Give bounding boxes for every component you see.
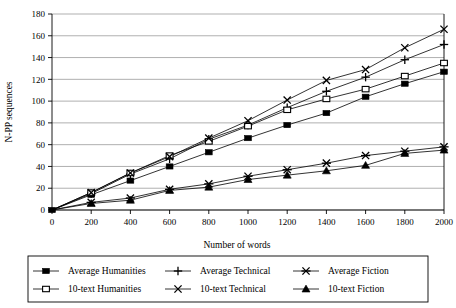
data-marker-plus [361,73,369,81]
y-tick-label: 160 [32,31,46,41]
x-tick-label: 600 [163,217,177,227]
y-tick-label: 120 [32,75,46,85]
legend-label: Average Fiction [328,266,389,276]
data-marker-filled-square [401,81,408,86]
y-tick-label: 100 [32,96,46,106]
chart-container: 020406080100120140160180 020040060080010… [0,0,456,308]
data-marker-cross [401,44,408,51]
y-tick-label: 140 [32,53,46,63]
series-4 [52,29,444,210]
y-axis-label: N-PP sequences [4,81,14,142]
series-markers-1 [87,40,448,198]
data-marker-plus [440,40,448,48]
data-marker-hollow-square [245,123,252,128]
data-marker-hollow-square [441,60,448,65]
data-series-group [49,26,449,213]
line-chart: 020406080100120140160180 020040060080010… [0,0,456,308]
data-marker-filled-square [323,110,330,115]
y-tick-label: 40 [36,162,46,172]
data-marker-hollow-square [323,96,330,101]
chart-legend: Average HumanitiesAverage TechnicalAvera… [28,256,428,302]
x-tick-label: 1600 [357,217,376,227]
data-marker-plus [174,267,182,275]
series-markers-3 [88,60,448,195]
y-tick-label: 180 [32,9,46,19]
legend-label: Average Technical [200,266,271,276]
legend-label: Average Humanities [68,266,146,276]
data-marker-hollow-square [401,73,408,78]
x-tick-label: 800 [202,217,216,227]
legend-item[interactable]: Average Fiction [293,266,389,276]
y-tick-label: 20 [36,183,46,193]
data-marker-filled-square [49,207,56,212]
x-axis-label: Number of words [203,240,270,250]
y-axis-ticks: 020406080100120140160180 [32,9,53,215]
data-marker-cross [323,77,330,84]
series-markers-0 [88,69,448,197]
legend-border [28,256,428,302]
x-tick-label: 1800 [396,217,415,227]
x-tick-label: 0 [50,217,55,227]
legend-label: 10-text Technical [200,284,266,294]
x-tick-label: 400 [124,217,138,227]
y-tick-label: 0 [41,205,46,215]
data-marker-filled-square [362,94,369,99]
data-marker-filled-square [284,122,291,127]
data-marker-asterisk [361,152,370,159]
legend-label: 10-text Fiction [328,284,384,294]
data-marker-plus [401,56,409,64]
x-tick-label: 1400 [317,217,336,227]
series-line [52,29,444,210]
legend-item[interactable]: 10-text Technical [165,284,266,294]
x-tick-label: 200 [84,217,98,227]
x-axis-ticks: 0200400600800100012001400160018002000 [50,210,454,227]
data-marker-hollow-square [43,286,50,291]
data-marker-filled-triangle [302,285,310,292]
x-tick-label: 1000 [239,217,258,227]
data-marker-cross [284,96,291,103]
legend-item[interactable]: Average Technical [165,266,271,276]
legend-item[interactable]: 10-text Humanities [33,284,141,294]
data-marker-plus [322,87,330,95]
series-markers-4 [88,26,448,197]
data-marker-hollow-square [284,107,291,112]
data-marker-filled-square [127,178,134,183]
data-marker-filled-square [441,69,448,74]
legend-item[interactable]: 10-text Fiction [293,284,384,294]
legend-label: 10-text Humanities [68,284,141,294]
legend-item[interactable]: Average Humanities [33,266,146,276]
data-marker-asterisk [322,160,331,167]
x-tick-label: 1200 [278,217,297,227]
data-marker-filled-square [43,268,50,273]
data-marker-cross [362,66,369,73]
data-marker-filled-square [166,164,173,169]
y-tick-label: 60 [36,140,46,150]
data-marker-asterisk [301,267,310,274]
y-tick-label: 80 [36,118,46,128]
data-marker-filled-square [205,150,212,155]
data-marker-filled-square [245,136,252,141]
data-marker-hollow-square [362,86,369,91]
x-tick-label: 2000 [435,217,454,227]
